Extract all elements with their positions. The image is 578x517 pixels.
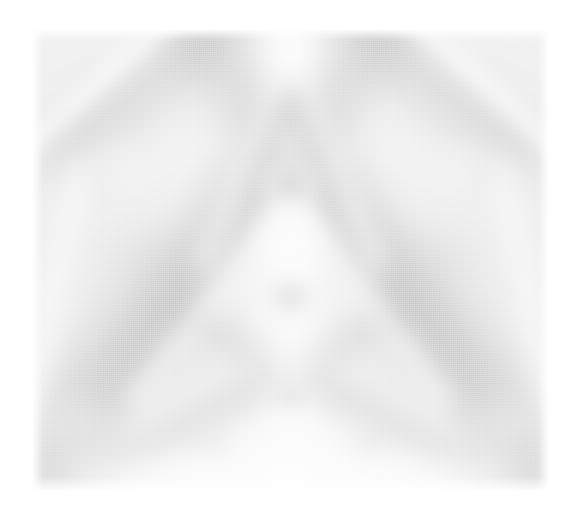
scan-grain-overlay (33, 30, 548, 490)
diffraction-pattern-image (33, 30, 548, 490)
figure-root: Low-contrast grayscale Kikuchi diffracti… (0, 0, 578, 517)
